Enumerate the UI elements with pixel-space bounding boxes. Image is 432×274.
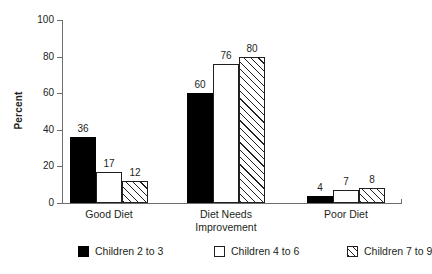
bar [96, 172, 122, 203]
y-axis-tick-label: 80 [0, 52, 63, 62]
chart-legend: Children 2 to 3Children 4 to 6Children 7… [62, 246, 412, 266]
x-axis-line [62, 203, 402, 204]
category-label: Diet NeedsImprovement [171, 208, 281, 233]
y-axis-tick-label: 20 [0, 161, 63, 171]
category-label-line: Improvement [171, 221, 281, 234]
category-label-line: Good Diet [54, 208, 164, 221]
bar-value-label: 80 [239, 44, 265, 54]
bar [333, 190, 359, 203]
open-white-swatch [214, 246, 225, 257]
category-label: Good Diet [54, 208, 164, 221]
legend-label: Children 7 to 9 [364, 246, 432, 257]
category-label-line: Poor Diet [291, 208, 401, 221]
bar-value-label: 7 [333, 177, 359, 187]
bar-value-label: 17 [96, 159, 122, 169]
category-label-line: Diet Needs [171, 208, 281, 221]
legend-item[interactable]: Children 4 to 6 [214, 246, 299, 257]
bar-value-label: 4 [307, 183, 333, 193]
y-axis-tick-label: 40 [0, 125, 63, 135]
plot-area: 361712607680478 [62, 20, 402, 203]
bar [122, 181, 148, 203]
hatched-swatch [347, 246, 358, 257]
bar-value-label: 12 [122, 168, 148, 178]
legend-item[interactable]: Children 7 to 9 [347, 246, 432, 257]
bar [187, 93, 213, 203]
bar [239, 57, 265, 203]
legend-item[interactable]: Children 2 to 3 [78, 246, 163, 257]
bar [307, 196, 333, 203]
category-label: Poor Diet [291, 208, 401, 221]
bar [359, 188, 385, 203]
bar-value-label: 76 [213, 51, 239, 61]
y-axis-tick-label: 60 [0, 88, 63, 98]
legend-label: Children 2 to 3 [95, 246, 163, 257]
bar-value-label: 8 [359, 175, 385, 185]
y-axis-tick-label: 100 [0, 15, 63, 25]
bar [70, 137, 96, 203]
solid-black-swatch [78, 246, 89, 257]
y-axis-tick-label: 0 [0, 198, 63, 208]
legend-label: Children 4 to 6 [231, 246, 299, 257]
bar-value-label: 36 [70, 124, 96, 134]
bar-value-label: 60 [187, 80, 213, 90]
bar [213, 64, 239, 203]
